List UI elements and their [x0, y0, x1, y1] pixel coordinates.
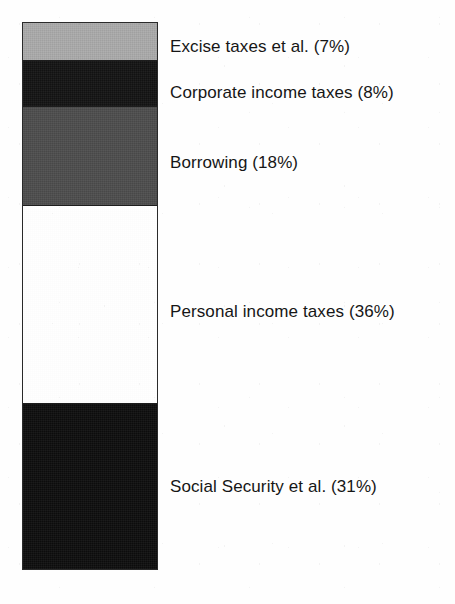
- stacked-bar-column: [22, 22, 158, 570]
- bar-segment-excise-taxes[interactable]: [23, 23, 157, 61]
- segment-label-borrowing: Borrowing (18%): [170, 153, 298, 173]
- bar-segment-social-security[interactable]: [23, 404, 157, 569]
- segment-label-excise-taxes: Excise taxes et al. (7%): [170, 37, 350, 57]
- bar-segment-borrowing[interactable]: [23, 107, 157, 207]
- bar-segment-personal-income-taxes[interactable]: [23, 206, 157, 403]
- segment-label-personal-income-taxes: Personal income taxes (36%): [170, 302, 395, 322]
- bar-segment-corporate-income-taxes[interactable]: [23, 61, 157, 107]
- segment-label-social-security: Social Security et al. (31%): [170, 477, 377, 497]
- segment-label-corporate-income-taxes: Corporate income taxes (8%): [170, 83, 394, 103]
- stacked-bar-chart: Excise taxes et al. (7%) Corporate incom…: [0, 0, 455, 604]
